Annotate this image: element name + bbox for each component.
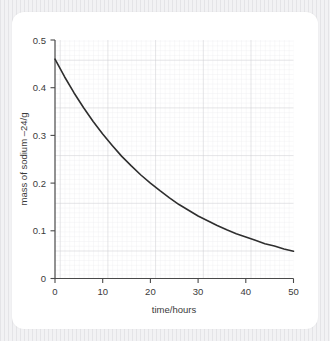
y-axis-title: mass of sodium –24/g — [18, 113, 29, 206]
x-tick-label-1: 10 — [97, 286, 108, 297]
x-axis-ticks — [55, 279, 294, 284]
x-axis-title: time/hours — [152, 304, 197, 315]
y-tick-label-1: 0.1 — [33, 225, 46, 236]
x-tick-label-3: 30 — [193, 286, 204, 297]
y-tick-label-4: 0.4 — [33, 82, 46, 93]
x-tick-label-4: 40 — [241, 286, 252, 297]
chart-svg: 0 0.1 0.2 0.3 0.4 0.5 0 10 20 30 40 50 t… — [12, 12, 318, 329]
y-tick-labels: 0 0.1 0.2 0.3 0.4 0.5 — [33, 35, 46, 285]
y-tick-label-5: 0.5 — [33, 35, 46, 46]
x-tick-labels: 0 10 20 30 40 50 — [52, 286, 298, 297]
y-tick-label-2: 0.2 — [33, 178, 46, 189]
chart-card: 0 0.1 0.2 0.3 0.4 0.5 0 10 20 30 40 50 t… — [12, 12, 318, 329]
y-tick-label-3: 0.3 — [33, 130, 46, 141]
plot-grid — [55, 40, 294, 279]
x-tick-label-5: 50 — [288, 286, 299, 297]
y-tick-label-0: 0 — [41, 273, 46, 284]
x-tick-label-2: 20 — [145, 286, 156, 297]
y-axis-ticks — [51, 40, 56, 279]
x-tick-label-0: 0 — [52, 286, 57, 297]
chart-figure: 0 0.1 0.2 0.3 0.4 0.5 0 10 20 30 40 50 t… — [12, 12, 318, 329]
